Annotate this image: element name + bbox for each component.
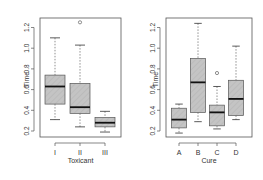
- y-axis-label: Time: [23, 72, 30, 87]
- x-tick-label: B: [196, 149, 201, 156]
- y-axis-label: Time: [152, 72, 159, 87]
- iqr-box: [229, 80, 244, 115]
- iqr-box: [210, 105, 225, 126]
- x-tick-label: II: [78, 149, 82, 156]
- x-tick-label: D: [233, 149, 238, 156]
- cure-boxplot-panel: 0.20.40.60.81.01.2TimeABCDCure: [149, 18, 252, 164]
- x-axis-label: Cure: [201, 157, 216, 164]
- toxicant-boxplot-panel: 0.20.40.60.81.01.2TimeIIIIIIToxicant: [23, 18, 121, 164]
- y-tick-label: 1.0: [23, 43, 30, 52]
- iqr-box: [70, 83, 90, 113]
- boxplot-figure: 0.20.40.60.81.01.2TimeIIIIIIToxicant 0.2…: [0, 0, 263, 180]
- box-A: [172, 104, 187, 133]
- y-tick-label: 0.2: [23, 126, 30, 135]
- outlier-point: [78, 21, 81, 24]
- box-I: [45, 38, 65, 120]
- chart-root: 0.20.40.60.81.01.2TimeIIIIIIToxicant 0.2…: [0, 0, 263, 180]
- box-C: [210, 71, 225, 128]
- y-tick-label: 1.2: [149, 23, 156, 32]
- iqr-box: [45, 75, 65, 104]
- y-tick-label: 0.4: [149, 105, 156, 114]
- iqr-box: [172, 108, 187, 128]
- iqr-box: [191, 59, 206, 113]
- y-tick-label: 1.0: [149, 43, 156, 52]
- x-tick-label: A: [177, 149, 182, 156]
- x-tick-label: III: [102, 149, 108, 156]
- box-B: [191, 23, 206, 121]
- box-III: [95, 111, 115, 132]
- box-D: [229, 46, 244, 119]
- y-tick-label: 1.2: [23, 23, 30, 32]
- y-tick-label: 0.4: [23, 105, 30, 114]
- outlier-point: [215, 71, 218, 74]
- x-tick-label: I: [54, 149, 56, 156]
- x-axis-label: Toxicant: [68, 157, 94, 164]
- x-tick-label: C: [214, 149, 219, 156]
- y-tick-label: 0.2: [149, 126, 156, 135]
- box-II: [70, 21, 90, 127]
